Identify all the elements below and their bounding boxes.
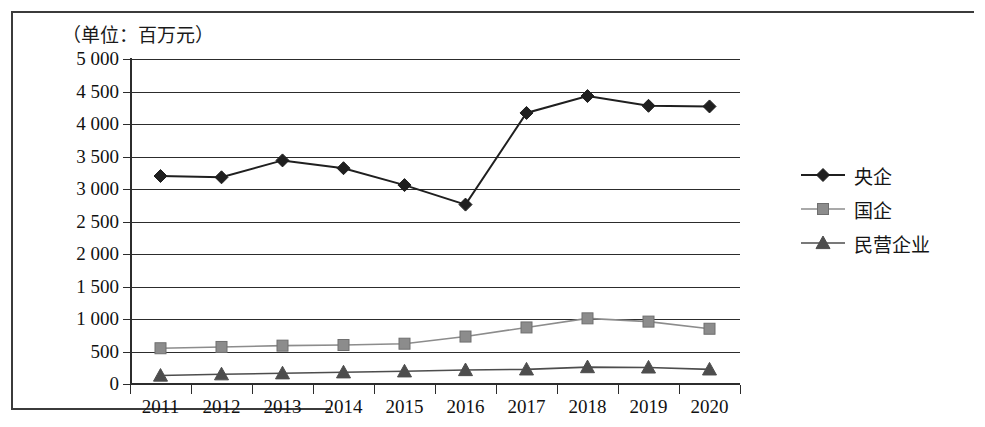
y-axis-tick <box>123 157 130 158</box>
x-axis-tick <box>618 385 619 394</box>
x-axis-tick-label: 2018 <box>569 396 607 418</box>
square-marker-icon <box>800 199 846 219</box>
legend-item-label: 央企 <box>854 162 892 189</box>
y-axis-tick <box>123 384 130 385</box>
triangle-marker-icon <box>800 233 846 253</box>
y-axis-tick-label: 1 500 <box>76 276 119 298</box>
data-point-marker <box>399 338 410 349</box>
series-layer <box>130 59 740 385</box>
x-axis-tick-label: 2014 <box>325 396 363 418</box>
data-point-marker <box>521 322 532 333</box>
x-axis-tick <box>435 385 436 394</box>
y-axis-tick-label: 2 500 <box>76 211 119 233</box>
y-axis-tick <box>123 352 130 353</box>
y-axis-tick-label: 4 000 <box>76 113 119 135</box>
legend-item-1: 国企 <box>800 192 975 226</box>
y-axis-tick <box>123 124 130 125</box>
y-axis-tick-label: 5 000 <box>76 48 119 70</box>
y-axis-tick <box>123 319 130 320</box>
y-axis-tick <box>123 92 130 93</box>
data-point-marker <box>216 341 227 352</box>
data-point-marker <box>459 198 472 211</box>
y-axis-tick <box>123 59 130 60</box>
x-axis-tick <box>557 385 558 394</box>
y-axis-tick-label: 4 500 <box>76 81 119 103</box>
legend-item-0: 央企 <box>800 158 975 192</box>
y-axis-tick <box>123 254 130 255</box>
data-point-marker <box>215 171 228 184</box>
data-point-marker <box>643 316 654 327</box>
x-axis-tick <box>313 385 314 394</box>
y-axis-tick <box>123 189 130 190</box>
chart-legend: 央企国企民营企业 <box>800 158 975 260</box>
series-line <box>161 367 710 375</box>
data-point-marker <box>338 340 349 351</box>
x-axis-tick <box>191 385 192 394</box>
x-axis-tick-label: 2013 <box>264 396 302 418</box>
y-axis-tick-label: 0 <box>110 373 120 395</box>
chart-figure: （单位：百万元） 05001 0001 5002 0002 5003 0003 … <box>0 0 985 427</box>
data-point-marker <box>398 179 411 192</box>
series-diamond <box>154 90 716 212</box>
unit-label: （单位：百万元） <box>62 20 214 47</box>
x-axis-tick-label: 2011 <box>142 396 179 418</box>
x-axis-tick <box>252 385 253 394</box>
data-point-marker <box>337 162 350 175</box>
data-point-marker <box>704 323 715 334</box>
data-point-marker <box>817 169 830 182</box>
x-axis-tick <box>679 385 680 394</box>
y-axis-tick <box>123 222 130 223</box>
data-point-marker <box>460 331 471 342</box>
data-point-marker <box>155 343 166 354</box>
data-point-marker <box>154 170 167 183</box>
legend-item-label: 国企 <box>854 196 892 223</box>
y-axis-tick <box>123 287 130 288</box>
data-point-marker <box>703 100 716 113</box>
series-square <box>155 313 715 354</box>
x-axis-tick-label: 2012 <box>203 396 241 418</box>
y-axis-tick-label: 3 000 <box>76 178 119 200</box>
data-point-marker <box>582 313 593 324</box>
series-triangle <box>154 360 717 381</box>
series-line <box>161 318 710 348</box>
plot-area: 05001 0001 5002 0002 5003 0003 5004 0004… <box>130 59 740 384</box>
data-point-marker <box>818 204 829 215</box>
data-point-marker <box>276 154 289 167</box>
legend-item-2: 民营企业 <box>800 226 975 260</box>
data-point-marker <box>642 99 655 112</box>
x-axis-tick-label: 2015 <box>386 396 424 418</box>
x-axis-tick <box>130 385 131 394</box>
y-axis-tick-label: 2 000 <box>76 243 119 265</box>
diamond-marker-icon <box>800 165 846 185</box>
x-axis-tick-label: 2019 <box>630 396 668 418</box>
data-point-marker <box>581 90 594 103</box>
x-axis-tick <box>496 385 497 394</box>
y-axis-tick-label: 1 000 <box>76 308 119 330</box>
x-axis-tick-label: 2017 <box>508 396 546 418</box>
x-axis-tick <box>740 385 741 394</box>
series-line <box>161 96 710 205</box>
data-point-marker <box>520 106 533 119</box>
x-axis-tick-label: 2016 <box>447 396 485 418</box>
legend-item-label: 民营企业 <box>854 230 930 257</box>
x-axis-tick <box>374 385 375 394</box>
y-axis-tick-label: 3 500 <box>76 146 119 168</box>
x-axis-tick-label: 2020 <box>691 396 729 418</box>
y-axis-tick-label: 500 <box>91 341 120 363</box>
data-point-marker <box>277 340 288 351</box>
